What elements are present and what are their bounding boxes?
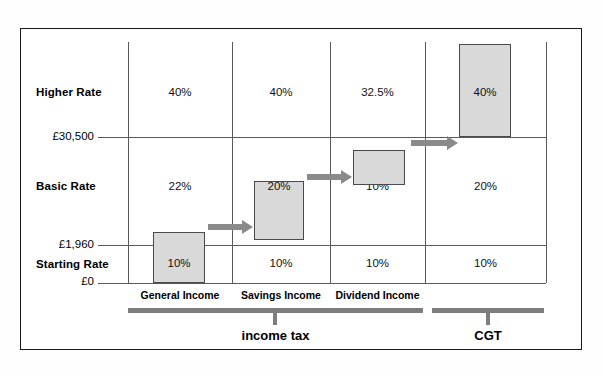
bracket-income-tax [128, 308, 423, 325]
arrow-dividend-to-cgt [411, 136, 458, 150]
bar-label-cgt: 40% [459, 86, 511, 98]
gridline-baseline-zero [98, 283, 546, 284]
chart-page: Higher Rate £30,500 Basic Rate £1,960 St… [0, 0, 603, 375]
cell-higher-general: 40% [128, 86, 232, 98]
gridline-threshold-upper [98, 137, 546, 138]
threshold-label-zero: £0 [22, 275, 94, 287]
cell-higher-savings: 40% [232, 86, 330, 98]
threshold-label-upper: £30,500 [22, 130, 94, 142]
bracket-cgt [432, 308, 544, 325]
column-header-dividend-income: Dividend Income [330, 289, 425, 301]
gridline-vertical-4 [425, 42, 426, 283]
cell-starting-cgt: 10% [425, 257, 546, 269]
bracket-label-income-tax: income tax [128, 328, 423, 343]
arrow-general-to-savings [208, 220, 253, 234]
cell-starting-dividend: 10% [330, 257, 425, 269]
arrow-savings-to-dividend [307, 170, 352, 184]
row-label-higher-rate: Higher Rate [36, 86, 102, 98]
bracket-label-cgt: CGT [432, 328, 544, 343]
gridline-vertical-3 [330, 42, 331, 283]
cell-basic-general: 22% [128, 180, 232, 192]
cell-higher-dividend: 32.5% [330, 86, 425, 98]
row-label-starting-rate: Starting Rate [36, 258, 109, 270]
row-label-basic-rate: Basic Rate [36, 180, 96, 192]
column-header-general-income: General Income [128, 289, 232, 301]
bar-dividend-income [353, 150, 405, 185]
gridline-vertical-2 [232, 42, 233, 283]
column-header-savings-income: Savings Income [232, 289, 330, 301]
cell-basic-cgt: 20% [425, 180, 546, 192]
cell-starting-savings: 10% [232, 257, 330, 269]
threshold-label-lower: £1,960 [22, 238, 94, 250]
bar-label-savings-income: 20% [254, 180, 304, 192]
gridline-vertical-5 [546, 42, 547, 283]
gridline-vertical-1 [128, 42, 129, 283]
bar-label-general-income: 10% [153, 257, 205, 269]
